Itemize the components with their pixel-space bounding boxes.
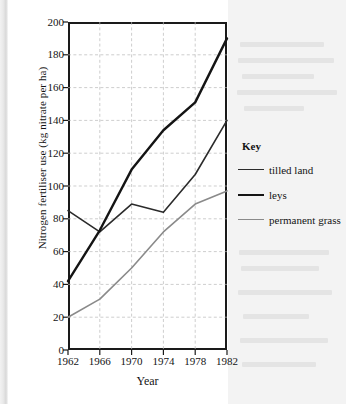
plot-area: [68, 22, 227, 350]
y-tick-label: 40: [30, 279, 64, 290]
legend-item: permanent grass: [238, 214, 342, 226]
y-tick-label: 160: [30, 82, 64, 93]
chart-legend: Key tilled landleyspermanent grass: [238, 140, 342, 239]
legend-line-swatch: [238, 214, 264, 225]
line-chart-figure: Nitrogen fertiliser use (kg nitrate per …: [0, 0, 346, 404]
y-tick-label: 120: [30, 148, 64, 159]
legend-item: tilled land: [238, 164, 342, 176]
y-tick-label: 20: [30, 312, 64, 323]
x-tick-label: 1982: [207, 356, 247, 367]
legend-items: tilled landleyspermanent grass: [238, 164, 342, 226]
legend-item-label: permanent grass: [269, 214, 341, 226]
legend-line-swatch: [238, 164, 264, 175]
series-line: [68, 120, 227, 232]
scanned-page: Nitrogen fertiliser use (kg nitrate per …: [0, 0, 346, 404]
legend-item: leys: [238, 189, 342, 201]
y-tick-label: 0: [30, 345, 64, 356]
legend-item-label: leys: [269, 189, 287, 201]
series-line: [68, 191, 227, 317]
gridlines: [68, 22, 227, 350]
y-tick-label: 60: [30, 246, 64, 257]
y-tick-label: 180: [30, 49, 64, 60]
y-tick-label: 200: [30, 17, 64, 28]
data-series-layer: [68, 38, 227, 317]
y-tick-label: 80: [30, 213, 64, 224]
legend-item-label: tilled land: [269, 164, 313, 176]
y-axis-tick-labels: 020406080100120140160180200: [24, 0, 64, 404]
x-axis-tick-labels: 196219661970197419781982: [0, 356, 346, 376]
x-axis-title: Year: [68, 374, 227, 389]
axis-tick-marks: [63, 22, 227, 355]
legend-line-swatch: [238, 189, 264, 200]
y-tick-label: 140: [30, 115, 64, 126]
y-tick-label: 100: [30, 181, 64, 192]
legend-title: Key: [242, 140, 342, 152]
